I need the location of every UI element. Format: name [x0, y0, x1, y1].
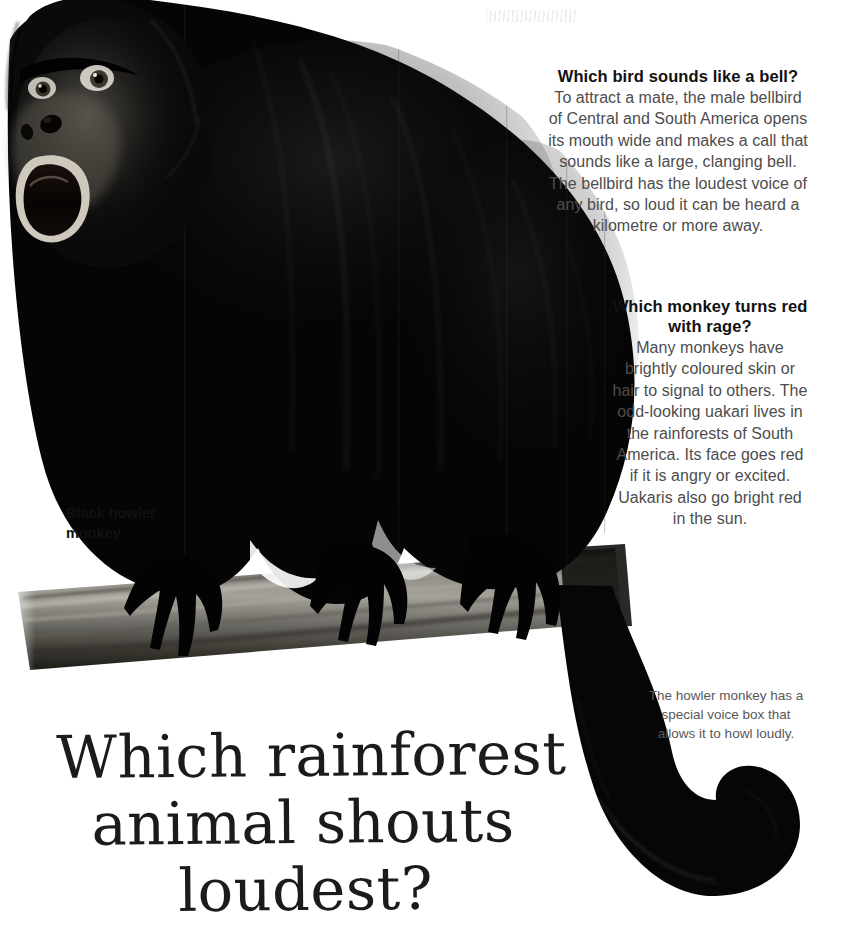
monkey-hand-front — [124, 554, 222, 656]
monkey-eye-left — [28, 77, 56, 99]
monkey-eye-right — [80, 65, 114, 91]
qa-block-bellbird: Which bird sounds like a bell? To attrac… — [548, 66, 808, 237]
page-title: Which rainforest animal shouts loudest? — [19, 720, 581, 926]
monkey-nostrils — [19, 112, 64, 141]
scan-watermark-smudge — [486, 10, 578, 22]
qa-body-uakari: Many monkeys have brightly coloured skin… — [612, 337, 808, 530]
monkey-head — [7, 0, 214, 268]
monkey-foot — [460, 533, 560, 640]
illustration-caption: The howler monkey has a special voice bo… — [646, 686, 806, 743]
qa-block-uakari: Which monkey turns red with rage? Many m… — [612, 296, 808, 530]
page-root: Which bird sounds like a bell? To attrac… — [0, 0, 849, 936]
qa-heading-bellbird: Which bird sounds like a bell? — [548, 66, 808, 86]
illustration-label-black-howler-monkey: Black howler monkey — [66, 503, 155, 543]
tree-branch — [0, 540, 632, 680]
qa-body-bellbird: To attract a mate, the male bellbird of … — [548, 87, 808, 237]
qa-heading-uakari: Which monkey turns red with rage? — [612, 296, 808, 336]
page-title-line-3: loudest? — [30, 854, 581, 926]
page-title-line-1: Which rainforest — [43, 720, 580, 792]
page-title-line-2: animal shouts — [26, 787, 581, 859]
monkey-hand-rear — [310, 543, 407, 646]
monkey-open-mouth — [16, 155, 90, 242]
